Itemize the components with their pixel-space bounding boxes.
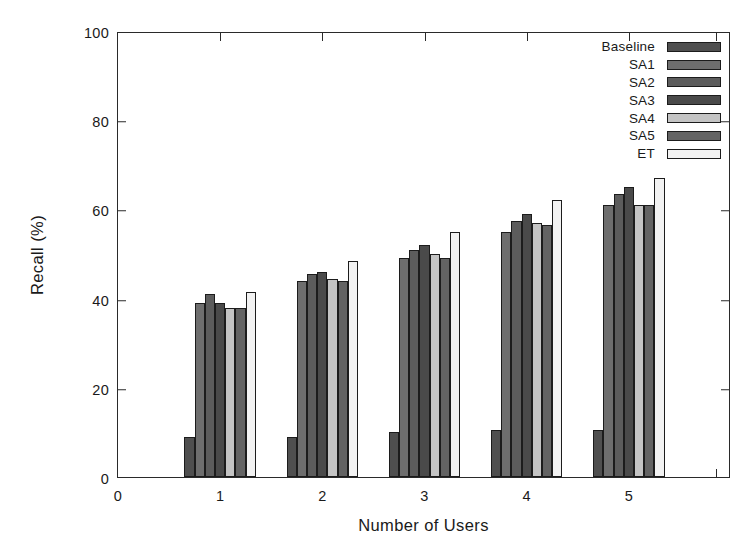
bar [235, 308, 245, 477]
y-tick-mark [721, 211, 729, 212]
bar [532, 223, 542, 477]
bar [409, 250, 419, 477]
y-tick-label: 20 [92, 382, 109, 398]
legend: BaselineSA1SA2SA3SA4SA5ET [553, 38, 721, 163]
legend-item-sa2: SA2 [553, 74, 721, 92]
legend-swatch [667, 113, 721, 123]
y-tick-mark [721, 300, 729, 301]
legend-label: ET [637, 146, 655, 161]
legend-swatch [667, 131, 721, 141]
bar [603, 205, 613, 477]
bar [654, 178, 664, 477]
bar [348, 261, 358, 477]
legend-label: Baseline [602, 39, 655, 54]
bar [215, 303, 225, 477]
x-tick-label: 4 [522, 488, 530, 504]
bar [593, 430, 603, 477]
y-tick-label: 60 [92, 203, 109, 219]
x-axis-title: Number of Users [117, 516, 730, 535]
bar [246, 292, 256, 477]
legend-swatch [667, 95, 721, 105]
legend-item-sa4: SA4 [553, 109, 721, 127]
legend-swatch [667, 149, 721, 159]
y-tick-label: 40 [92, 293, 109, 309]
y-tick-mark [118, 300, 126, 301]
x-tick-label: 2 [318, 488, 326, 504]
x-tick-mark [322, 33, 323, 41]
x-tick-label: 3 [420, 488, 428, 504]
legend-label: SA2 [629, 75, 655, 90]
bar [419, 245, 429, 477]
y-tick-mark [118, 121, 126, 122]
bar [287, 437, 297, 477]
y-tick-mark [118, 389, 126, 390]
x-tick-mark [527, 33, 528, 41]
bar [205, 294, 215, 477]
y-tick-label: 80 [92, 114, 109, 130]
y-tick-mark [721, 389, 729, 390]
legend-label: SA5 [629, 128, 655, 143]
bar [450, 232, 460, 477]
legend-item-sa5: SA5 [553, 127, 721, 145]
bar [501, 232, 511, 477]
y-tick-mark [721, 121, 729, 122]
bar [542, 225, 552, 477]
bar [491, 430, 501, 477]
legend-label: SA4 [629, 111, 655, 126]
legend-label: SA3 [629, 93, 655, 108]
bar [522, 214, 532, 477]
bar [338, 281, 348, 477]
legend-item-et: ET [553, 145, 721, 163]
recall-bar-chart: 020406080100012345 Number of Users Recal… [0, 0, 752, 552]
y-tick-label: 0 [101, 471, 109, 487]
legend-swatch [667, 60, 721, 70]
x-tick-mark [220, 33, 221, 41]
bar [195, 303, 205, 477]
bar [184, 437, 194, 477]
y-tick-label: 100 [84, 25, 109, 41]
x-tick-mark [716, 469, 717, 477]
y-tick-mark [118, 211, 126, 212]
bar [511, 221, 521, 477]
bar [624, 187, 634, 477]
legend-swatch [667, 77, 721, 87]
bar [644, 205, 654, 477]
bar [614, 194, 624, 477]
legend-label: SA1 [629, 57, 655, 72]
bar [440, 258, 450, 477]
x-tick-label: 1 [216, 488, 224, 504]
legend-item-sa3: SA3 [553, 91, 721, 109]
bar [327, 279, 337, 477]
bar [399, 258, 409, 477]
bar [225, 308, 235, 477]
legend-item-baseline: Baseline [553, 38, 721, 56]
bar [430, 254, 440, 477]
bar [389, 432, 399, 477]
bar [297, 281, 307, 477]
legend-swatch [667, 42, 721, 52]
y-axis-title: Recall (%) [24, 32, 50, 478]
x-tick-label: 0 [114, 488, 122, 504]
bar [552, 200, 562, 477]
bar [307, 274, 317, 477]
bar [317, 272, 327, 477]
bar [634, 205, 644, 477]
x-tick-mark [425, 33, 426, 41]
x-tick-label: 5 [625, 488, 633, 504]
legend-item-sa1: SA1 [553, 56, 721, 74]
